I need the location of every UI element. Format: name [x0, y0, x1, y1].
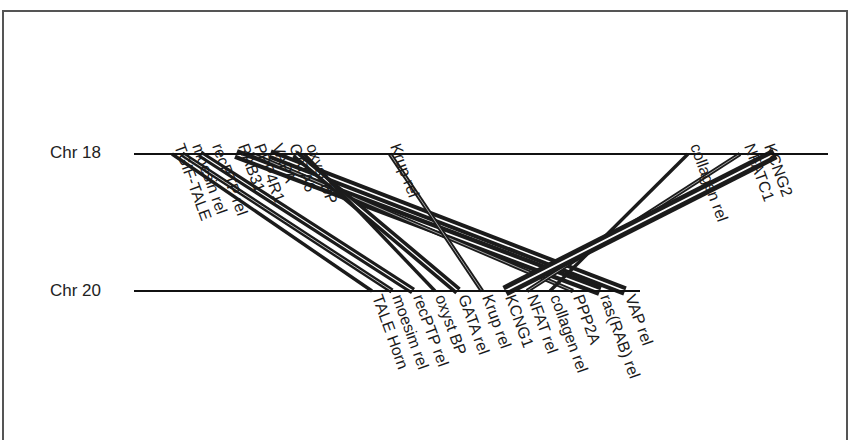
synteny-link [505, 154, 775, 291]
synteny-link [550, 154, 688, 291]
chr18-gene-label: Krup rel [387, 141, 422, 199]
